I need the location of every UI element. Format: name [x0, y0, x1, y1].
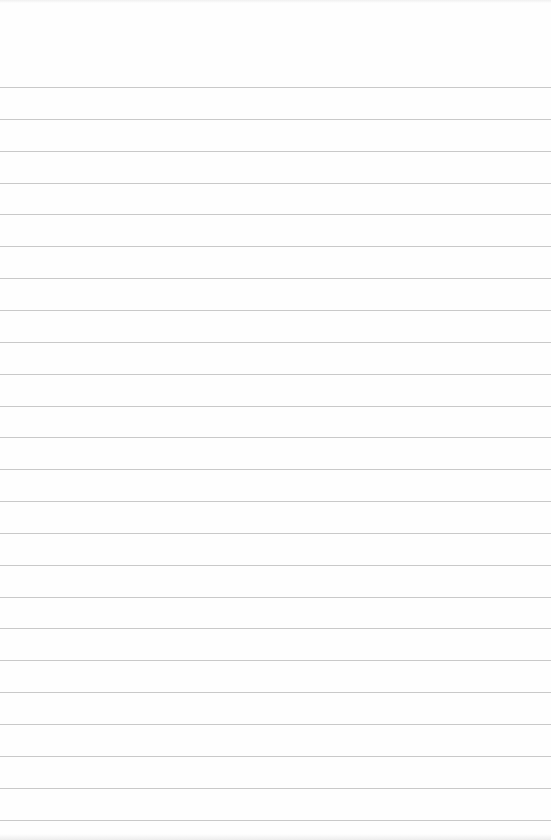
ruled-line	[0, 87, 551, 88]
ruled-line	[0, 724, 551, 725]
ruled-line	[0, 756, 551, 757]
ruled-line	[0, 469, 551, 470]
ruled-line	[0, 119, 551, 120]
ruled-line	[0, 246, 551, 247]
ruled-line	[0, 597, 551, 598]
ruled-line	[0, 342, 551, 343]
ruled-line	[0, 788, 551, 789]
ruled-line	[0, 374, 551, 375]
ruled-line	[0, 501, 551, 502]
paper-top-edge	[0, 0, 551, 3]
ruled-line	[0, 310, 551, 311]
ruled-line	[0, 406, 551, 407]
lined-paper-page	[0, 0, 551, 840]
ruled-line	[0, 278, 551, 279]
ruled-line	[0, 437, 551, 438]
ruled-line	[0, 692, 551, 693]
ruled-line	[0, 183, 551, 184]
ruled-line	[0, 628, 551, 629]
ruled-line	[0, 151, 551, 152]
ruled-line	[0, 214, 551, 215]
ruled-line	[0, 565, 551, 566]
ruled-line	[0, 660, 551, 661]
paper-bottom-edge	[0, 834, 551, 840]
ruled-line	[0, 533, 551, 534]
ruled-line	[0, 820, 551, 821]
